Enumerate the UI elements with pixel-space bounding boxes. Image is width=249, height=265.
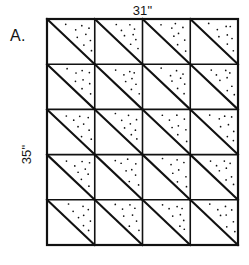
stipple-dot xyxy=(75,72,77,74)
stipple-dot xyxy=(219,170,221,172)
stipple-dot xyxy=(77,126,79,128)
stipple-dot xyxy=(231,85,233,87)
stipple-dot xyxy=(220,126,222,128)
cell-diagonal xyxy=(95,19,143,64)
stipple-dot xyxy=(232,50,234,52)
stipple-dot xyxy=(216,165,218,167)
stipple-dot xyxy=(231,209,233,211)
stipple-dot xyxy=(225,206,227,208)
stipple-dot xyxy=(125,170,127,172)
stipple-dot xyxy=(170,164,172,166)
stipple-dot xyxy=(209,114,211,116)
cell-diagonal xyxy=(47,109,95,154)
stipple-dot xyxy=(184,39,186,41)
stipple-dot xyxy=(83,225,85,227)
stipple-dot xyxy=(128,114,130,116)
stipple-dot xyxy=(138,184,140,186)
cell-diagonal xyxy=(190,19,238,64)
stipple-dot xyxy=(75,80,77,82)
stipple-dot xyxy=(182,73,184,75)
stipple-dot xyxy=(170,75,172,77)
stipple-dot xyxy=(130,134,132,136)
stipple-dot xyxy=(181,208,183,210)
stipple-dot xyxy=(233,184,235,186)
stipple-dot xyxy=(176,70,178,72)
stipple-dot xyxy=(186,186,188,188)
stipple-dot xyxy=(121,119,123,121)
stipple-dot xyxy=(115,24,117,26)
stipple-dot xyxy=(176,206,178,208)
stipple-dot xyxy=(175,23,177,25)
stipple-dot xyxy=(123,215,125,217)
stipple-dot xyxy=(83,215,85,217)
stipple-dot xyxy=(171,27,173,29)
cell-diagonal xyxy=(47,155,95,200)
stipple-dot xyxy=(183,228,185,230)
stipple-dot xyxy=(229,162,231,164)
stipple-dot xyxy=(162,204,164,206)
stipple-dot xyxy=(218,118,220,120)
stipple-dot xyxy=(177,44,179,46)
stipple-dot xyxy=(135,163,137,165)
stipple-dot xyxy=(115,69,117,71)
stipple-dot xyxy=(128,225,130,227)
stipple-dot xyxy=(226,90,228,92)
stipple-dot xyxy=(225,70,227,72)
stipple-dot xyxy=(131,89,133,91)
stipple-dot xyxy=(168,208,170,210)
stipple-dot xyxy=(233,140,235,142)
stipple-dot xyxy=(209,203,211,205)
stipple-dot xyxy=(81,179,83,181)
stipple-dot xyxy=(184,83,186,85)
stipple-dot xyxy=(78,217,80,219)
cell-diagonal xyxy=(143,200,191,245)
stipple-dot xyxy=(219,79,221,81)
stipple-dot xyxy=(210,69,212,71)
stipple-dot xyxy=(226,77,228,79)
cell-diagonal xyxy=(143,109,191,154)
stipple-dot xyxy=(136,138,138,140)
stipple-dot xyxy=(79,115,81,117)
stipple-dot xyxy=(216,29,218,31)
stipple-dot xyxy=(171,80,173,82)
stipple-dot xyxy=(81,161,83,163)
cell-diagonal xyxy=(47,200,95,245)
stipple-dot xyxy=(121,30,123,32)
stipple-dot xyxy=(225,167,227,169)
stipple-dot xyxy=(233,94,235,96)
stipple-dot xyxy=(224,115,226,117)
stipple-dot xyxy=(81,70,83,72)
stipple-dot xyxy=(225,179,227,181)
stipple-dot xyxy=(88,129,90,131)
stipple-dot xyxy=(131,78,133,80)
stipple-dot xyxy=(229,26,231,28)
stipple-dot xyxy=(231,176,233,178)
stipple-dot xyxy=(220,215,222,217)
stipple-dot xyxy=(77,171,79,173)
stipple-dot xyxy=(134,28,136,30)
stipple-dot xyxy=(90,40,92,42)
stipple-dot xyxy=(234,231,236,233)
stipple-dot xyxy=(231,116,233,118)
stipple-dot xyxy=(185,176,187,178)
stipple-dot xyxy=(180,77,182,79)
cell-diagonal xyxy=(95,109,143,154)
stipple-dot xyxy=(68,203,70,205)
stipple-dot xyxy=(124,35,126,37)
stipple-dot xyxy=(132,34,134,36)
stipple-dot xyxy=(129,71,131,73)
stipple-dot xyxy=(160,67,162,69)
stipple-dot xyxy=(177,88,179,90)
cell-diagonal xyxy=(190,109,238,154)
stipple-dot xyxy=(225,214,227,216)
stipple-dot xyxy=(216,74,218,76)
stipple-dot xyxy=(176,114,178,116)
stipple-dot xyxy=(87,117,89,119)
stipple-dot xyxy=(89,72,91,74)
stipple-dot xyxy=(87,173,89,175)
stipple-dot xyxy=(225,26,227,28)
stipple-dot xyxy=(172,215,174,217)
stipple-dot xyxy=(178,33,180,35)
cell-diagonal xyxy=(47,64,95,109)
stipple-dot xyxy=(124,127,126,129)
